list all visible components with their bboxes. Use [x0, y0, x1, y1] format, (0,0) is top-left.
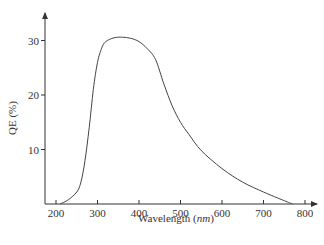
qe-chart: 200300400500600700800 102030 Wavelength …	[0, 0, 324, 245]
x-tick-label: 600	[214, 207, 231, 219]
x-tick-label: 700	[255, 207, 272, 219]
qe-curve	[60, 37, 292, 204]
x-tick-label: 300	[89, 207, 106, 219]
y-tick-label: 30	[28, 35, 40, 47]
y-axis-title: QE (%)	[6, 101, 19, 135]
x-tick-label: 800	[297, 207, 314, 219]
x-axis-title: Wavelength (nm)	[138, 212, 214, 225]
x-tick-label: 200	[48, 207, 65, 219]
y-tick-label: 10	[28, 144, 40, 156]
y-ticks: 102030	[28, 35, 45, 156]
y-tick-label: 20	[28, 89, 40, 101]
